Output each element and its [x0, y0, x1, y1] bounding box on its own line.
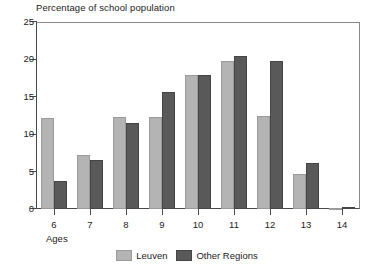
bar-other-regions-age-10 — [198, 75, 211, 209]
x-axis-tick — [162, 209, 163, 215]
x-axis-tick — [126, 209, 127, 215]
x-axis-tick-label-6: 6 — [41, 219, 67, 230]
x-axis-tick — [234, 209, 235, 215]
bar-other-regions-age-13 — [306, 163, 319, 209]
x-axis-tick — [342, 209, 343, 215]
x-axis-tick — [54, 209, 55, 215]
bar-other-regions-age-12 — [270, 61, 283, 209]
legend-item-other-regions[interactable]: Other Regions — [176, 250, 257, 261]
bar-other-regions-age-9 — [162, 92, 175, 209]
x-axis-title: Ages — [46, 233, 68, 244]
x-axis-tick — [198, 209, 199, 215]
bars-layer: 67891011121314 — [0, 0, 374, 271]
bar-other-regions-age-8 — [126, 123, 139, 209]
x-axis-tick-label-8: 8 — [113, 219, 139, 230]
legend-label: Leuven — [136, 250, 167, 261]
legend-label: Other Regions — [196, 250, 257, 261]
bar-other-regions-age-14 — [342, 207, 355, 209]
x-axis-tick — [270, 209, 271, 215]
bar-leuven-age-6 — [41, 118, 54, 209]
chart-figure: Percentage of school population 05101520… — [0, 0, 374, 271]
x-axis-tick-label-7: 7 — [77, 219, 103, 230]
chart-legend: LeuvenOther Regions — [0, 250, 374, 261]
x-axis-tick-label-13: 13 — [293, 219, 319, 230]
bar-leuven-age-9 — [149, 117, 162, 209]
x-axis-tick-label-10: 10 — [185, 219, 211, 230]
x-axis-tick — [306, 209, 307, 215]
bar-leuven-age-11 — [221, 61, 234, 209]
bar-leuven-age-10 — [185, 75, 198, 209]
bar-leuven-age-14 — [329, 208, 342, 210]
bar-other-regions-age-11 — [234, 56, 247, 209]
legend-item-leuven[interactable]: Leuven — [116, 250, 167, 261]
bar-leuven-age-7 — [77, 155, 90, 209]
bar-leuven-age-13 — [293, 174, 306, 209]
bar-other-regions-age-6 — [54, 181, 67, 209]
x-axis-tick-label-14: 14 — [329, 219, 355, 230]
x-axis-tick-label-11: 11 — [221, 219, 247, 230]
bar-other-regions-age-7 — [90, 160, 103, 209]
bar-leuven-age-8 — [113, 117, 126, 209]
x-axis-tick — [90, 209, 91, 215]
bar-leuven-age-12 — [257, 116, 270, 210]
legend-swatch-icon — [176, 250, 192, 261]
x-axis-tick-label-9: 9 — [149, 219, 175, 230]
x-axis-tick-label-12: 12 — [257, 219, 283, 230]
legend-swatch-icon — [116, 250, 132, 261]
